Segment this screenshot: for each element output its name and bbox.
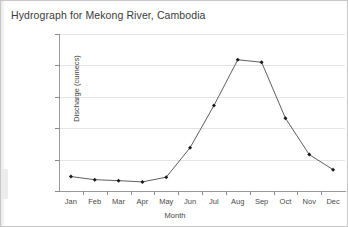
chart-title: Hydrograph for Mekong River, Cambodia: [11, 9, 206, 21]
x-tick-label: Jul: [209, 197, 219, 206]
x-tick-mark: [274, 191, 275, 195]
hydrograph-figure: Hydrograph for Mekong River, Cambodia Di…: [0, 0, 348, 227]
y-tick-mark: [55, 128, 60, 129]
x-tick-label: Feb: [88, 197, 101, 206]
x-tick-label: Apr: [137, 197, 149, 206]
x-tick-mark: [226, 191, 227, 195]
gridline: [59, 160, 345, 161]
gridline: [59, 128, 345, 129]
plot-area: Discharge (cumecs): [59, 34, 345, 191]
x-tick-label: Nov: [303, 197, 316, 206]
x-tick-mark: [107, 191, 108, 195]
x-tick-label: Jan: [65, 197, 77, 206]
y-tick-mark: [55, 191, 60, 192]
y-tick-mark: [55, 160, 60, 161]
x-tick-label: May: [159, 197, 173, 206]
x-tick-mark: [321, 191, 322, 195]
gridline: [59, 65, 345, 66]
x-tick-mark: [178, 191, 179, 195]
x-tick-label: Mar: [112, 197, 125, 206]
page-edge-notch: [1, 169, 8, 199]
x-tick-label: Dec: [326, 197, 339, 206]
x-tick-mark: [202, 191, 203, 195]
gridline: [59, 97, 345, 98]
x-axis-title: Month: [1, 211, 348, 220]
x-tick-label: Jun: [184, 197, 196, 206]
x-tick-mark: [154, 191, 155, 195]
x-tick-mark: [250, 191, 251, 195]
x-tick-mark: [131, 191, 132, 195]
x-tick-mark: [297, 191, 298, 195]
x-tick-label: Sep: [255, 197, 268, 206]
x-tick-label: Oct: [280, 197, 292, 206]
gridline: [59, 34, 345, 35]
x-tick-mark: [83, 191, 84, 195]
y-axis-title: Discharge (cumecs): [72, 34, 81, 144]
y-tick-mark: [55, 97, 60, 98]
y-tick-mark: [55, 65, 60, 66]
y-tick-mark: [55, 34, 60, 35]
x-tick-label: Aug: [231, 197, 244, 206]
